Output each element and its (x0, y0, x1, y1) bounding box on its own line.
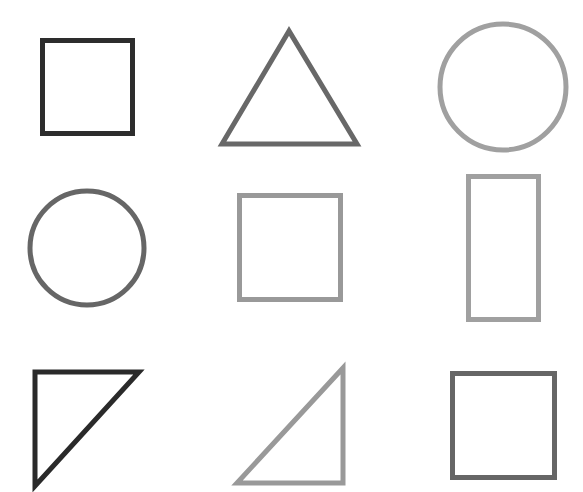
right-triangle-light-shape (237, 368, 343, 483)
circle-mid-shape (30, 191, 144, 305)
square-mid-shape (453, 374, 555, 478)
rectangle-light-shape (469, 177, 539, 320)
circle-light-shape (440, 24, 566, 150)
right-triangle-dark-shape (35, 372, 139, 486)
triangle-mid-shape (222, 31, 357, 144)
shapes-canvas (0, 0, 583, 492)
square-dark-shape (43, 41, 133, 134)
square-light-shape (240, 196, 341, 300)
